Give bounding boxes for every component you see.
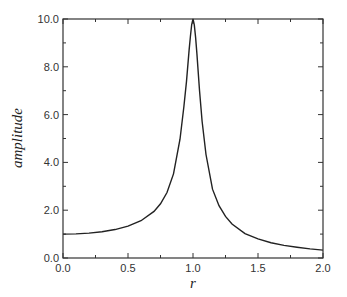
axis-ticks <box>63 19 323 258</box>
resonance-chart: 0.00.51.01.52.00.02.04.06.08.010.0 r amp… <box>0 0 347 297</box>
y-axis-title: amplitude <box>9 108 25 168</box>
tick-label: 10.0 <box>38 13 59 25</box>
tick-label: 0.5 <box>120 262 135 274</box>
tick-label: 8.0 <box>44 61 59 73</box>
tick-labels: 0.00.51.01.52.00.02.04.06.08.010.0 <box>38 13 331 274</box>
amplitude-curve <box>63 19 323 250</box>
tick-label: 4.0 <box>44 156 59 168</box>
x-axis-title: r <box>190 275 196 291</box>
plot-frame <box>63 19 323 258</box>
tick-label: 1.0 <box>185 262 200 274</box>
tick-label: 2.0 <box>44 204 59 216</box>
tick-label: 1.5 <box>250 262 265 274</box>
tick-label: 6.0 <box>44 109 59 121</box>
tick-label: 2.0 <box>315 262 330 274</box>
tick-label: 0.0 <box>44 252 59 264</box>
